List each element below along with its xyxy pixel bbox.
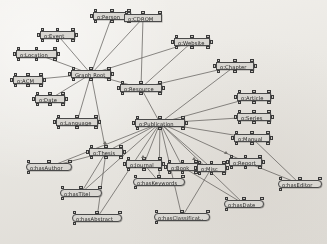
resize-handle-icon[interactable] [32, 97, 36, 101]
resize-handle-icon[interactable] [158, 157, 162, 161]
resize-handle-icon[interactable] [13, 52, 17, 56]
resize-handle-icon[interactable] [157, 175, 161, 179]
resize-handle-icon[interactable] [262, 160, 266, 164]
resize-handle-icon[interactable] [17, 58, 21, 62]
resize-handle-icon[interactable] [158, 81, 162, 85]
resize-handle-icon[interactable] [107, 78, 111, 82]
resize-handle-icon[interactable] [26, 73, 30, 77]
resize-handle-icon[interactable] [250, 70, 254, 74]
resize-handle-icon[interactable] [56, 28, 60, 32]
resize-handle-icon[interactable] [230, 166, 234, 170]
resize-handle-icon[interactable] [252, 101, 256, 105]
resize-handle-icon[interactable] [71, 39, 75, 43]
resize-handle-icon[interactable] [233, 70, 237, 74]
resize-handle-icon[interactable] [73, 211, 77, 215]
resize-handle-icon[interactable] [119, 156, 123, 160]
resize-handle-icon[interactable] [53, 120, 57, 124]
resize-handle-icon[interactable] [171, 40, 175, 44]
resize-handle-icon[interactable] [136, 116, 140, 120]
graph-node-hasclassificat[interactable]: o:hasClassificat.. [154, 213, 210, 221]
graph-node-cdrom[interactable]: o:CDROM [124, 14, 162, 22]
resize-handle-icon[interactable] [75, 115, 79, 119]
resize-handle-icon[interactable] [37, 33, 41, 37]
resize-handle-icon[interactable] [61, 186, 65, 190]
graph-edge[interactable] [160, 123, 183, 167]
graph-node-journal[interactable]: o:Journal [126, 160, 162, 168]
resize-handle-icon[interactable] [134, 186, 138, 190]
graph-node-series[interactable]: o:Series [237, 113, 271, 121]
graph-canvas[interactable]: o:Persono:CDROMo:Evento:Websiteo:Locatio… [0, 0, 327, 244]
resize-handle-icon[interactable] [217, 70, 221, 74]
resize-handle-icon[interactable] [123, 150, 127, 154]
graph-node-website[interactable]: o:Website [174, 38, 210, 46]
resize-handle-icon[interactable] [198, 172, 202, 176]
resize-handle-icon[interactable] [61, 103, 65, 107]
resize-handle-icon[interactable] [94, 115, 98, 119]
resize-handle-icon[interactable] [238, 101, 242, 105]
resize-handle-icon[interactable] [94, 126, 98, 130]
graph-edge[interactable] [91, 16, 112, 74]
resize-handle-icon[interactable] [35, 58, 39, 62]
resize-handle-icon[interactable] [79, 186, 83, 190]
resize-handle-icon[interactable] [252, 90, 256, 94]
resize-handle-icon[interactable] [318, 177, 322, 181]
graph-edge[interactable] [159, 123, 160, 182]
resize-handle-icon[interactable] [180, 210, 184, 214]
resize-handle-icon[interactable] [181, 127, 185, 131]
resize-handle-icon[interactable] [252, 110, 256, 114]
resize-handle-icon[interactable] [98, 120, 102, 124]
resize-handle-icon[interactable] [53, 58, 57, 62]
resize-handle-icon[interactable] [95, 211, 99, 215]
resize-handle-icon[interactable] [206, 46, 210, 50]
resize-handle-icon[interactable] [90, 156, 94, 160]
resize-handle-icon[interactable] [90, 145, 94, 149]
resize-handle-icon[interactable] [267, 90, 271, 94]
graph-node-location[interactable]: o:Location [16, 50, 57, 58]
graph-node-resource[interactable]: o:Resource [120, 84, 162, 92]
resize-handle-icon[interactable] [94, 20, 98, 24]
resize-handle-icon[interactable] [258, 166, 262, 170]
resize-handle-icon[interactable] [27, 160, 31, 164]
resize-handle-icon[interactable] [39, 73, 43, 77]
resize-handle-icon[interactable] [27, 171, 31, 175]
resize-handle-icon[interactable] [57, 52, 61, 56]
resize-handle-icon[interactable] [141, 11, 145, 15]
resize-handle-icon[interactable] [213, 64, 217, 68]
resize-handle-icon[interactable] [90, 14, 94, 18]
resize-handle-icon[interactable] [72, 67, 76, 71]
resize-handle-icon[interactable] [279, 188, 283, 192]
resize-handle-icon[interactable] [190, 35, 194, 39]
resize-handle-icon[interactable] [254, 64, 258, 68]
resize-handle-icon[interactable] [244, 155, 248, 159]
resize-handle-icon[interactable] [72, 78, 76, 82]
resize-handle-icon[interactable] [190, 46, 194, 50]
resize-handle-icon[interactable] [43, 78, 47, 82]
resize-handle-icon[interactable] [110, 9, 114, 13]
resize-handle-icon[interactable] [266, 142, 270, 146]
resize-handle-icon[interactable] [217, 59, 221, 63]
resize-handle-icon[interactable] [238, 110, 242, 114]
resize-handle-icon[interactable] [134, 175, 138, 179]
resize-handle-icon[interactable] [104, 156, 108, 160]
resize-handle-icon[interactable] [36, 103, 40, 107]
graph-edge[interactable] [81, 152, 106, 193]
resize-handle-icon[interactable] [41, 28, 45, 32]
resize-handle-icon[interactable] [127, 157, 131, 161]
resize-handle-icon[interactable] [270, 136, 274, 140]
resize-handle-icon[interactable] [35, 47, 39, 51]
resize-handle-icon[interactable] [158, 127, 162, 131]
resize-handle-icon[interactable] [53, 47, 57, 51]
graph-node-chapter[interactable]: o:Chapter [216, 62, 254, 70]
resize-handle-icon[interactable] [118, 211, 122, 215]
resize-handle-icon[interactable] [181, 160, 185, 164]
resize-handle-icon[interactable] [225, 208, 229, 212]
resize-handle-icon[interactable] [136, 127, 140, 131]
resize-handle-icon[interactable] [111, 72, 115, 76]
resize-handle-icon[interactable] [48, 103, 52, 107]
resize-handle-icon[interactable] [231, 136, 235, 140]
resize-handle-icon[interactable] [234, 115, 238, 119]
resize-handle-icon[interactable] [68, 160, 72, 164]
resize-handle-icon[interactable] [210, 40, 214, 44]
resize-handle-icon[interactable] [158, 116, 162, 120]
resize-handle-icon[interactable] [238, 90, 242, 94]
